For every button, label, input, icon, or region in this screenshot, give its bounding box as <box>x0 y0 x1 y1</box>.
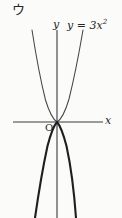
choice-marker-label: ウ <box>12 3 25 16</box>
downward-parabola-curve <box>35 122 76 218</box>
y-axis-label: y <box>53 19 59 30</box>
parabola-figure: ウ y y = 3x2 x O <box>0 0 122 218</box>
equation-base: y = 3x <box>67 19 103 32</box>
graph-canvas <box>0 0 122 218</box>
curve-equation-label: y = 3x2 <box>67 19 107 31</box>
origin-label: O <box>45 123 53 133</box>
equation-exponent: 2 <box>103 18 107 26</box>
x-axis-label: x <box>105 115 111 126</box>
